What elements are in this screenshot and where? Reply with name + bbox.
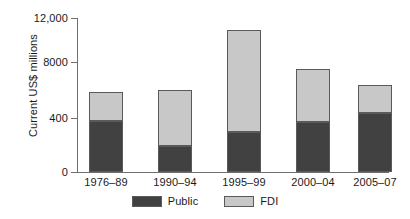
y-tick-label-wrap-4000: 400	[0, 113, 68, 124]
y-tick-mark-0	[71, 172, 77, 173]
legend-label-fdi: FDI	[260, 196, 278, 207]
bar-segment-fdi[interactable]	[296, 69, 330, 122]
x-axis-line	[77, 172, 389, 173]
y-axis-line	[77, 18, 78, 173]
bar-segment-fdi[interactable]	[358, 85, 392, 113]
x-tick-label-0: 1976–89	[66, 176, 146, 188]
bar-group-3[interactable]	[296, 69, 330, 172]
y-axis-title: Current US$ millions	[22, 0, 44, 195]
y-tick-label-12000: 12,000	[6, 13, 68, 24]
y-tick-label-8000: 8000	[6, 57, 68, 68]
bar-segment-fdi[interactable]	[158, 90, 192, 146]
y-tick-label-wrap-8000: 8000	[0, 57, 68, 68]
bar-segment-public[interactable]	[227, 132, 261, 172]
bar-group-0[interactable]	[89, 92, 123, 172]
legend-swatch-public	[132, 196, 162, 207]
bar-group-1[interactable]	[158, 90, 192, 172]
legend-label-public: Public	[168, 196, 199, 207]
bar-segment-public[interactable]	[89, 121, 123, 172]
bar-segment-public[interactable]	[158, 146, 192, 172]
y-tick-mark-12000	[71, 18, 77, 19]
y-tick-label-0: 0	[6, 167, 68, 178]
y-tick-label-4000: 400	[6, 113, 68, 124]
y-tick-label-wrap-12000: 12,000	[0, 13, 68, 24]
bar-group-2[interactable]	[227, 30, 261, 172]
bar-chart: Current US$ millions 12,000 8000 400 0 1…	[0, 0, 410, 219]
bar-segment-public[interactable]	[296, 122, 330, 172]
legend-item-public[interactable]: Public	[132, 196, 199, 207]
legend-swatch-fdi	[224, 196, 254, 207]
legend: Public FDI	[0, 196, 410, 207]
y-tick-mark-4000	[71, 118, 77, 119]
bar-segment-public[interactable]	[358, 113, 392, 172]
y-tick-mark-8000	[71, 62, 77, 63]
x-tick-label-2: 1995–99	[204, 176, 284, 188]
x-tick-label-4: 2005–07	[335, 176, 410, 188]
bar-segment-fdi[interactable]	[89, 92, 123, 120]
legend-item-fdi[interactable]: FDI	[224, 196, 278, 207]
x-tick-label-1: 1990–94	[135, 176, 215, 188]
bar-group-4[interactable]	[358, 85, 392, 172]
bar-segment-fdi[interactable]	[227, 30, 261, 133]
y-tick-label-wrap-0: 0	[0, 167, 68, 178]
